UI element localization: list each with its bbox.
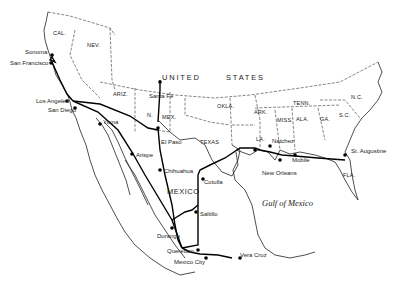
label-state-cal: CAL. (53, 31, 66, 37)
label-state-ga: GA. (320, 117, 330, 123)
label-city-mexico-city: Mexico City (174, 259, 205, 265)
label-city-queretaro: Queretaro (167, 248, 194, 254)
label-city-sonoma: Sonoma (25, 49, 47, 55)
label-state-nc: N.C. (351, 95, 363, 101)
label-city-el-paso: El Paso (161, 139, 182, 145)
label-state-ariz: ARIZ. (113, 92, 128, 98)
label-city-chihuahua: Chihuahua (164, 168, 193, 174)
label-country-united: UNITED (162, 74, 201, 82)
label-city-new-orleans: New Orleans (262, 170, 297, 176)
label-state-ala: ALA. (296, 117, 309, 123)
label-city-cotulla: Cotulla (204, 179, 223, 185)
label-state-miss: MISS. (277, 118, 293, 124)
label-state-la: LA. (256, 137, 265, 143)
label-city-los-angeles: Los Angeles (36, 98, 69, 104)
label-city-san-diego: San Diego (48, 107, 76, 113)
label-country-mexico: MEXICO (167, 188, 200, 196)
label-city-natchez: Natchez (272, 138, 294, 144)
label-state-tenn: TENN. (293, 101, 311, 107)
label-state-n: N. (147, 113, 153, 119)
label-state-mex: MEX. (162, 115, 176, 121)
map-canvas (0, 0, 395, 290)
label-city-san-francisco: San Francisco (10, 60, 48, 66)
label-city-mobile: Mobile (292, 157, 310, 163)
label-city-st-augustine: St. Augustine (351, 148, 386, 154)
label-city-santa-fe: Santa Fe (149, 93, 173, 99)
label-city-durango: Durango (157, 233, 180, 239)
label-state-ark: ARK. (254, 110, 268, 116)
label-country-states: STATES (226, 74, 265, 82)
label-state-fla: FLA. (343, 173, 355, 179)
label-city-arispe: Arispe (136, 152, 153, 158)
label-state-nev: NEV. (87, 43, 100, 49)
state-borders (48, 12, 378, 150)
label-city-vera-cruz: Vera Cruz (240, 252, 267, 258)
label-gulf-of-mexico: Gulf of Mexico (262, 199, 313, 208)
label-city-saltillo: Saltillo (200, 211, 218, 217)
label-city-yuma: Yuma (103, 119, 118, 125)
label-state-texas: TEXAS (200, 140, 219, 146)
label-state-sc: S.C. (339, 113, 351, 119)
label-state-okla: OKLA. (217, 104, 234, 110)
